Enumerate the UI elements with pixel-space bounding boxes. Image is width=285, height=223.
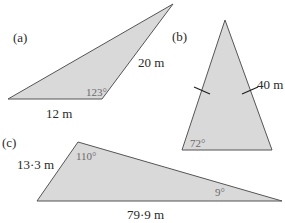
angle-label-72: 72°: [190, 137, 205, 149]
angle-label-110: 110°: [76, 150, 97, 162]
angle-label-123: 123°: [86, 86, 107, 98]
angle-label-9: 9°: [215, 186, 225, 198]
side-label-20m: 20 m: [138, 55, 164, 70]
side-label-79-9m: 79·9 m: [127, 207, 164, 222]
label-b: (b): [172, 29, 187, 44]
side-label-40m: 40 m: [257, 77, 283, 92]
label-a: (a): [13, 30, 27, 45]
side-label-12m: 12 m: [46, 106, 72, 121]
triangles-diagram: (a) 20 m 12 m 123° (b) 40 m 72° (c) 13·3…: [0, 0, 285, 223]
side-label-13-3m: 13·3 m: [17, 157, 54, 172]
triangle-b: (b) 40 m 72°: [172, 20, 283, 150]
triangle-a: (a) 20 m 12 m 123°: [8, 4, 173, 121]
label-c: (c): [2, 135, 16, 150]
